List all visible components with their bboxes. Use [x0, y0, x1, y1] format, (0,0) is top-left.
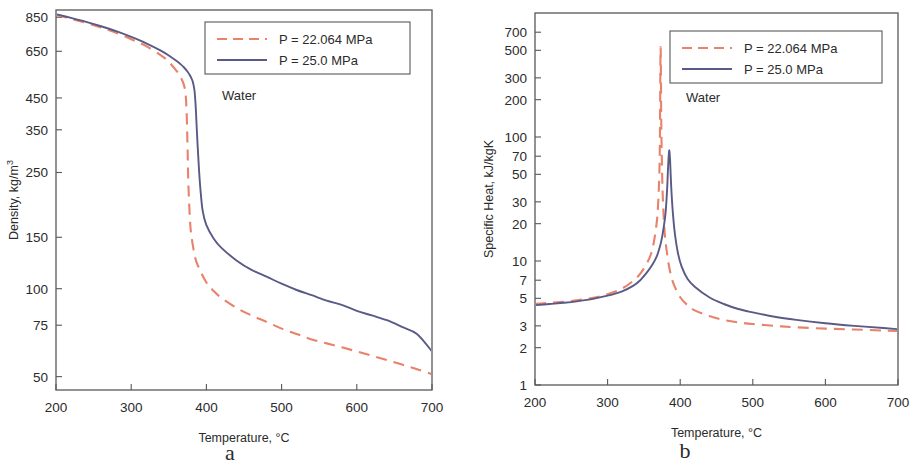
y-axis-tick-label: 1	[519, 378, 527, 393]
water-annotation: Water	[222, 88, 257, 103]
x-axis-tick-label: 300	[596, 395, 619, 410]
x-axis-tick-label: 500	[742, 395, 765, 410]
data-curve-p25	[535, 150, 898, 329]
y-axis-tick-label: 5	[519, 291, 527, 306]
y-axis-tick-label: 75	[33, 318, 48, 333]
panel-a-density: 8506504503502501501007550200300400500600…	[0, 0, 460, 474]
x-axis-tick-label: 700	[421, 400, 444, 415]
y-axis-tick-label: 650	[25, 44, 48, 59]
x-axis-tick-label: 400	[195, 400, 218, 415]
y-axis-tick-label: 50	[512, 167, 527, 182]
panel-b-specific-heat: 7005003002001007050302010753212003004005…	[455, 0, 915, 474]
y-axis-title: Specific Heat, kJ/kgK	[482, 139, 496, 258]
y-axis-tick-label: 3	[519, 319, 527, 334]
x-axis-tick-label: 400	[669, 395, 692, 410]
panel-a-plot: 8506504503502501501007550200300400500600…	[0, 0, 460, 474]
y-axis-tick-label: 20	[512, 217, 527, 232]
x-axis-tick-label: 200	[45, 400, 68, 415]
water-annotation: Water	[686, 90, 721, 105]
y-axis-title: Density, kg/m3	[5, 160, 21, 240]
y-axis-tick-label: 300	[504, 71, 527, 86]
panel-b-letter: b	[455, 438, 915, 464]
y-axis-tick-label: 100	[504, 130, 527, 145]
x-axis-tick-label: 300	[120, 400, 143, 415]
x-axis-tick-label: 600	[346, 400, 369, 415]
y-axis-tick-label: 350	[25, 123, 48, 138]
y-axis-tick-label: 2	[519, 341, 527, 356]
figure-density-specific-heat-water: 8506504503502501501007550200300400500600…	[0, 0, 915, 474]
y-axis-tick-label: 150	[25, 230, 48, 245]
y-axis-tick-label: 250	[25, 165, 48, 180]
y-axis-tick-label: 200	[504, 93, 527, 108]
y-axis-tick-label: 30	[512, 195, 527, 210]
y-axis-tick-label: 500	[504, 43, 527, 58]
x-axis-tick-label: 700	[887, 395, 910, 410]
y-axis-tick-label: 100	[25, 282, 48, 297]
x-axis-tick-label: 200	[524, 395, 547, 410]
y-axis-tick-label: 10	[512, 254, 527, 269]
legend-label: P = 22.064 MPa	[744, 41, 838, 56]
x-axis-tick-label: 500	[270, 400, 293, 415]
panel-a-letter: a	[0, 440, 460, 466]
y-axis-tick-label: 50	[33, 370, 48, 385]
y-axis-tick-label: 450	[25, 91, 48, 106]
legend-label: P = 25.0 MPa	[744, 62, 824, 77]
panel-b-plot: 7005003002001007050302010753212003004005…	[455, 0, 915, 474]
legend-label: P = 22.064 MPa	[279, 32, 373, 47]
y-axis-tick-label: 700	[504, 25, 527, 40]
y-axis-tick-label: 70	[512, 149, 527, 164]
x-axis-tick-label: 600	[814, 395, 837, 410]
legend-label: P = 25.0 MPa	[279, 53, 359, 68]
y-axis-tick-label: 7	[519, 273, 527, 288]
y-axis-tick-label: 850	[25, 10, 48, 25]
